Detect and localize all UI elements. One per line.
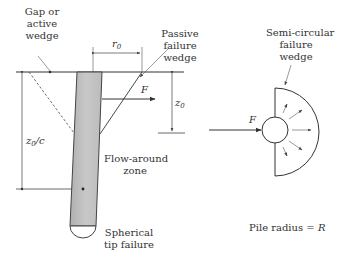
pile-spherical-tip — [70, 226, 96, 238]
pile-failure-diagram: Gap or active wedge Passive failure wedg… — [0, 0, 343, 264]
pile-cross-section — [262, 117, 288, 143]
flow-around-label: Flow-around zone — [104, 153, 166, 177]
force-label-right: F — [249, 114, 256, 126]
semi-leader-line — [285, 65, 291, 85]
passive-wedge-label: Passive failure wedge — [156, 28, 204, 64]
r0-label: r0 — [112, 38, 121, 53]
pile-radius-label: Pile radius = R — [249, 222, 325, 234]
gap-label: Gap or active wedge — [18, 6, 66, 42]
rotation-point — [82, 188, 85, 191]
passive-wedge-line — [100, 72, 142, 134]
active-wedge-dashed-line — [29, 72, 74, 133]
pile-shaft — [70, 72, 102, 226]
gap-leader-line — [38, 56, 50, 71]
force-label-left: F — [141, 84, 148, 96]
z0-label: z0 — [175, 97, 185, 112]
semicircular-wedge-label: Semi-circular failure wedge — [266, 27, 326, 63]
spherical-tip-label: Spherical tip failure — [104, 227, 154, 251]
z0c-label: z0/c — [26, 135, 45, 150]
